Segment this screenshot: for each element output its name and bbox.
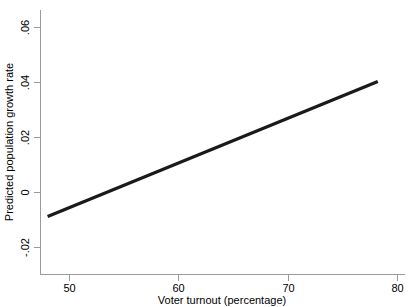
x-axis-title: Voter turnout (percentage) — [158, 294, 286, 306]
y-tick-label-0.06: .06 — [19, 20, 31, 35]
x-tick-label-50: 50 — [63, 282, 75, 294]
line-chart-canvas: .06 .04 .02 0 -.02 Predicted population … — [0, 0, 412, 307]
chart-figure: .06 .04 .02 0 -.02 Predicted population … — [0, 0, 412, 307]
y-tick-label-0.02: .02 — [19, 130, 31, 145]
x-tick-label-70: 70 — [282, 282, 294, 294]
chart-background — [0, 0, 412, 307]
y-tick-label-0.04: .04 — [19, 75, 31, 90]
y-tick-label--0.02: -.02 — [19, 238, 31, 257]
y-axis-title: Predicted population growth rate — [3, 63, 15, 221]
x-tick-label-60: 60 — [172, 282, 184, 294]
x-tick-label-80: 80 — [391, 282, 403, 294]
y-tick-label-0: 0 — [19, 189, 31, 195]
